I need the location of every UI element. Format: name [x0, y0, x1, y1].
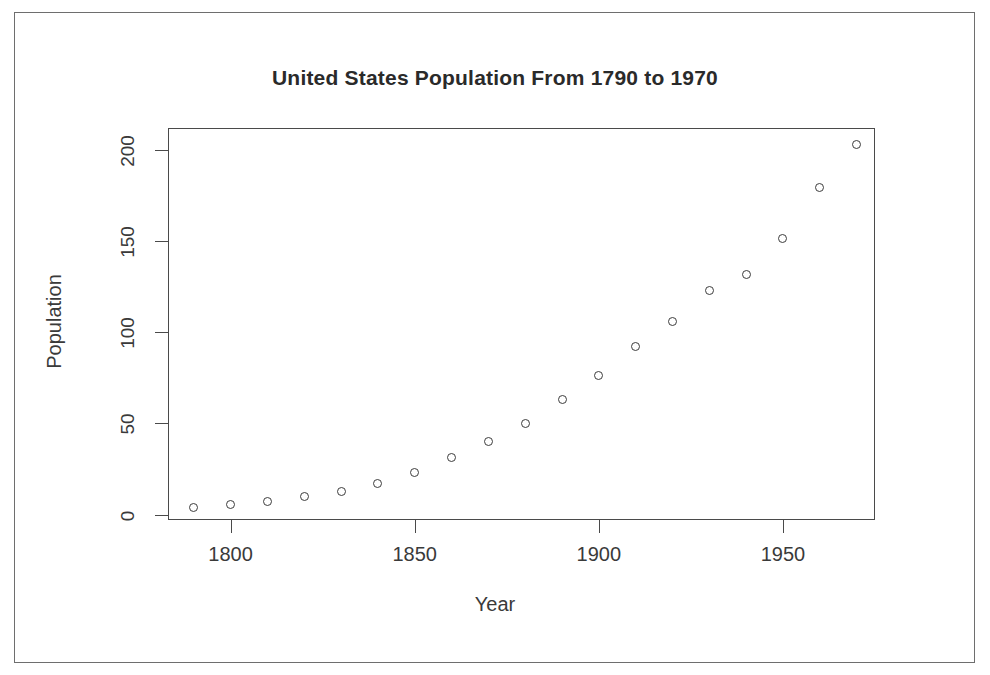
- chart-figure: United States Population From 1790 to 19…: [0, 0, 990, 675]
- y-axis-tick-label-text: 150: [117, 222, 139, 262]
- x-axis-tick-label: 1900: [554, 543, 644, 566]
- data-point: [373, 479, 382, 488]
- x-axis-tick: [415, 520, 416, 533]
- data-point: [410, 468, 419, 477]
- y-axis-tick-label-text: 200: [117, 131, 139, 171]
- y-axis-tick-label: 150: [108, 221, 148, 261]
- screenshot-root: United States Population From 1790 to 19…: [0, 0, 990, 675]
- x-axis-tick: [599, 520, 600, 533]
- y-axis-tick-label-text: 100: [117, 313, 139, 353]
- chart-title: United States Population From 1790 to 19…: [0, 66, 990, 90]
- y-axis-tick: [155, 332, 168, 333]
- x-axis-tick-label: 1950: [738, 543, 828, 566]
- x-axis-tick: [231, 520, 232, 533]
- y-axis-tick: [155, 515, 168, 516]
- data-point: [226, 500, 235, 509]
- y-axis-title: Population: [43, 242, 66, 402]
- data-point: [815, 183, 824, 192]
- y-axis-tick-label: 200: [108, 130, 148, 170]
- x-axis-tick: [783, 520, 784, 533]
- x-axis-tick-label: 1850: [370, 543, 460, 566]
- x-axis-tick-label: 1800: [186, 543, 276, 566]
- data-point: [668, 317, 677, 326]
- data-point: [852, 140, 861, 149]
- data-point: [300, 492, 309, 501]
- data-point: [778, 234, 787, 243]
- y-axis-tick-label-text: 50: [117, 404, 139, 444]
- y-axis-tick-label: 0: [108, 495, 148, 535]
- y-axis-tick-label: 100: [108, 312, 148, 352]
- y-axis-tick: [155, 241, 168, 242]
- data-point: [484, 437, 493, 446]
- plot-area: [168, 128, 875, 520]
- data-point: [742, 270, 751, 279]
- data-point: [705, 286, 714, 295]
- data-point: [189, 503, 198, 512]
- y-axis-tick-label: 50: [108, 403, 148, 443]
- data-point: [447, 453, 456, 462]
- data-point: [594, 371, 603, 380]
- data-point: [558, 395, 567, 404]
- x-axis-title: Year: [0, 593, 990, 616]
- data-point: [263, 497, 272, 506]
- data-point: [337, 487, 346, 496]
- y-axis-tick: [155, 423, 168, 424]
- data-point: [521, 419, 530, 428]
- y-axis-tick: [155, 150, 168, 151]
- data-point: [631, 342, 640, 351]
- y-axis-tick-label-text: 0: [117, 496, 139, 536]
